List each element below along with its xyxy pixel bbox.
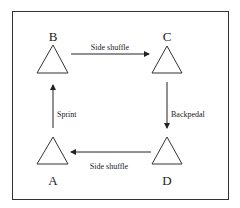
edge-b-to-c: Side shuffle (71, 43, 149, 54)
edge-label: Sprint (57, 110, 77, 119)
edge-a-to-b: Sprint (53, 85, 77, 128)
node-b: B (37, 29, 68, 73)
node-a: A (37, 137, 68, 188)
cone-b-icon (37, 45, 68, 73)
node-b-label: B (49, 29, 58, 44)
edge-label: Side shuffle (90, 162, 129, 171)
node-d-label: D (162, 173, 171, 188)
cone-a-icon (37, 137, 68, 164)
edge-c-to-d: Backpedal (167, 82, 206, 128)
node-a-label: A (48, 173, 58, 188)
node-c-label: C (163, 29, 172, 44)
edge-d-to-a: Side shuffle (71, 152, 151, 171)
drill-diagram: B C A D Side shuffle Backpedal Side shuf… (0, 0, 240, 208)
edge-label: Backpedal (171, 110, 206, 119)
edge-label: Side shuffle (91, 43, 130, 52)
cone-c-icon (152, 46, 182, 73)
node-d: D (152, 137, 182, 188)
node-c: C (152, 29, 182, 73)
cone-d-icon (152, 137, 182, 164)
